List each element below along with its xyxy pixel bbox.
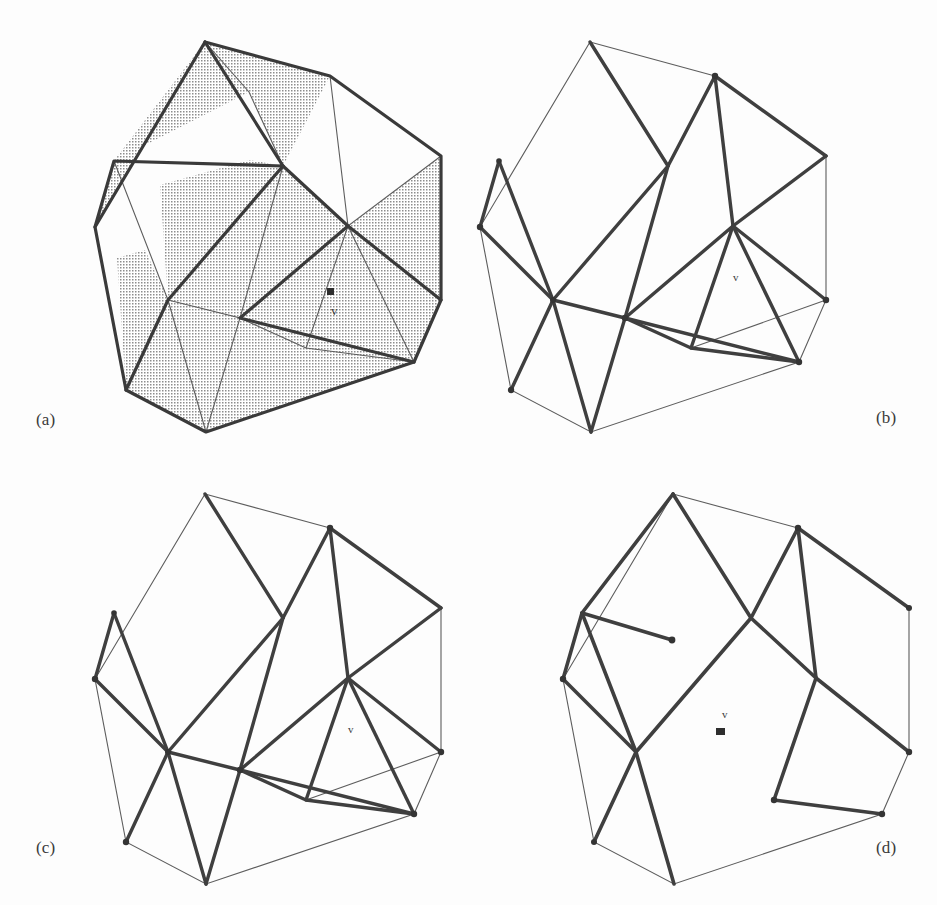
- panel-label-a: (a): [36, 410, 55, 430]
- panel-d: v: [468, 452, 936, 904]
- panel-d-thin-edges: [563, 494, 909, 884]
- panel-d-thick-edges: [563, 494, 909, 884]
- panel-b-thick-edges: [480, 42, 826, 432]
- panel-b-vertex-label: v: [733, 271, 739, 283]
- panel-c-vertex-label: v: [348, 723, 354, 735]
- panel-c: v: [0, 452, 468, 904]
- panel-a-shaded-faces: [95, 42, 441, 432]
- panel-c-thin-edges: [95, 494, 441, 884]
- panel-c-thick-edges: [95, 494, 441, 884]
- panel-label-d: (d): [876, 838, 896, 858]
- panel-a-vertex-label: v: [331, 303, 338, 318]
- figure-root: v: [0, 0, 937, 905]
- panel-b-thin-edges: [480, 42, 826, 432]
- panel-d-vertex-label: v: [722, 708, 728, 720]
- panel-b-drawing: v: [468, 0, 936, 452]
- panel-b: v: [468, 0, 936, 452]
- panel-label-b: (b): [876, 408, 896, 428]
- panel-label-c: (c): [36, 838, 55, 858]
- panel-c-drawing: v: [0, 452, 468, 904]
- panel-a: v: [0, 0, 468, 452]
- panel-d-vertex-marker: v: [716, 708, 728, 735]
- panel-a-drawing: v: [0, 0, 468, 452]
- panel-d-drawing: v: [468, 452, 936, 904]
